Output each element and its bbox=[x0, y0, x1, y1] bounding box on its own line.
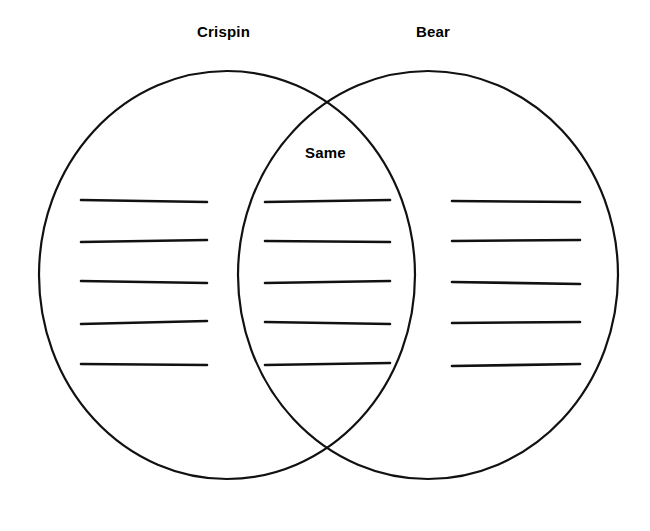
right-circle-label: Bear bbox=[416, 24, 450, 39]
writing-line bbox=[81, 364, 207, 365]
right-writing-lines bbox=[452, 201, 580, 366]
writing-line bbox=[265, 322, 390, 324]
left-circle-label: Crispin bbox=[197, 24, 250, 39]
writing-line bbox=[452, 201, 580, 202]
writing-line bbox=[452, 282, 580, 284]
writing-line bbox=[265, 281, 390, 283]
writing-line bbox=[265, 200, 390, 202]
writing-line bbox=[81, 200, 207, 202]
writing-line bbox=[265, 241, 390, 242]
writing-line bbox=[452, 240, 580, 241]
writing-line bbox=[81, 321, 207, 324]
intersection-label: Same bbox=[305, 145, 346, 160]
writing-line bbox=[265, 363, 390, 365]
left-writing-lines bbox=[81, 200, 207, 365]
center-writing-lines bbox=[265, 200, 390, 365]
venn-circles bbox=[39, 71, 618, 479]
writing-line bbox=[81, 281, 207, 283]
writing-line bbox=[452, 364, 580, 366]
right-circle bbox=[238, 71, 618, 479]
left-circle bbox=[39, 71, 415, 479]
writing-line bbox=[81, 240, 207, 242]
venn-diagram-worksheet: Crispin Bear Same bbox=[0, 0, 650, 531]
venn-diagram-canvas bbox=[0, 0, 650, 531]
writing-line bbox=[452, 322, 580, 323]
